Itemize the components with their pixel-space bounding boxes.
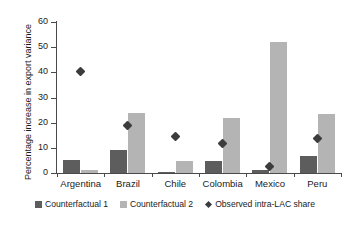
x-axis-tick [57,173,58,177]
bar-counterfactual-2 [176,161,193,173]
y-axis-tick-label: 0 [22,168,48,177]
marker-observed-intra-lac-share [170,131,180,141]
x-axis-category-label: Argentina [57,178,104,189]
y-axis-tick [51,47,56,48]
bar-group [246,22,293,173]
legend-item: Counterfactual 2 [120,199,193,209]
y-axis-tick [51,72,56,73]
y-axis-tick [51,123,56,124]
bar-counterfactual-1 [300,156,317,173]
bar-counterfactual-1 [205,161,222,173]
x-axis-category-label: Mexico [246,178,293,189]
y-axis-tick [51,98,56,99]
square-swatch-icon [120,201,127,208]
bar-counterfactual-1 [63,160,80,173]
x-axis-tick [152,173,153,177]
bar-counterfactual-1 [252,170,269,173]
x-axis-tick [341,173,342,177]
bar-group [152,22,199,173]
y-axis-tick-label: 60 [22,17,48,26]
y-axis-tick-label: 30 [22,93,48,102]
plot-area [57,22,341,173]
chart-legend: Counterfactual 1Counterfactual 2Observed… [0,199,350,209]
bar-group [57,22,104,173]
legend-item-label: Counterfactual 1 [45,199,108,209]
legend-item-label: Counterfactual 2 [130,199,193,209]
x-axis-tick [104,173,105,177]
bar-counterfactual-2 [81,170,98,173]
x-axis-category-label: Chile [152,178,199,189]
bar-counterfactual-2 [223,118,240,173]
bar-counterfactual-2 [270,42,287,173]
legend-item-label: Observed intra-LAC share [215,199,315,209]
chart-figure: Percentage increase in export variance 0… [0,0,350,227]
y-axis-tick-label: 20 [22,118,48,127]
legend-item: Observed intra-LAC share [205,199,315,209]
bar-counterfactual-2 [128,113,145,173]
marker-observed-intra-lac-share [76,67,86,77]
y-axis-tick [51,22,56,23]
x-axis-tick [199,173,200,177]
bar-group [199,22,246,173]
y-axis-tick-label: 10 [22,143,48,152]
bar-group [104,22,151,173]
bar-counterfactual-1 [158,172,175,173]
legend-item: Counterfactual 1 [35,199,108,209]
x-axis-category-label: Peru [294,178,341,189]
bar-counterfactual-2 [318,114,335,173]
bar-counterfactual-1 [110,150,127,173]
x-axis-tick [246,173,247,177]
y-axis-tick [51,148,56,149]
y-axis-tick-label: 50 [22,42,48,51]
x-axis-category-label: Brazil [104,178,151,189]
square-swatch-icon [35,201,42,208]
y-axis-tick [51,173,56,174]
diamond-icon [205,200,212,207]
bar-group [294,22,341,173]
y-axis-tick-label: 40 [22,67,48,76]
x-axis-category-label: Colombia [199,178,246,189]
x-axis-tick [294,173,295,177]
